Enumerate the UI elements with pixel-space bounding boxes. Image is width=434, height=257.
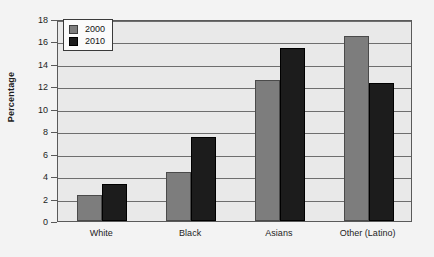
legend-item-label: 2000 <box>85 25 105 34</box>
y-axis-tick-label: 16 <box>18 38 48 47</box>
legend-item-2000: 2000 <box>69 23 105 35</box>
y-axis-tick-label: 4 <box>18 173 48 182</box>
y-axis-tick-mark <box>51 222 57 223</box>
bar-other-latino-2010 <box>369 83 394 221</box>
bar-asians-2010 <box>280 48 305 221</box>
legend-swatch-icon <box>69 25 78 34</box>
y-axis-tick-label: 10 <box>18 105 48 114</box>
x-axis-tick-label: Other (Latino) <box>340 228 396 238</box>
legend-item-label: 2010 <box>85 37 105 46</box>
bar-black-2010 <box>191 137 216 221</box>
legend-item-2010: 2010 <box>69 35 105 47</box>
bar-white-2000 <box>77 195 102 221</box>
x-axis-tick-label: Asians <box>265 228 292 238</box>
y-axis: 024681012141618 <box>0 0 57 257</box>
y-axis-tick-label: 18 <box>18 16 48 25</box>
y-axis-tick-label: 0 <box>18 218 48 227</box>
y-axis-tick-label: 6 <box>18 150 48 159</box>
bar-white-2010 <box>102 184 127 221</box>
bar-chart-figure: Percentage 024681012141618 WhiteBlackAsi… <box>0 0 434 257</box>
x-axis: WhiteBlackAsiansOther (Latino) <box>57 228 412 244</box>
legend-swatch-icon <box>69 37 78 46</box>
bar-asians-2000 <box>255 80 280 221</box>
y-axis-tick-label: 14 <box>18 60 48 69</box>
x-axis-tick-label: White <box>90 228 113 238</box>
bar-black-2000 <box>166 172 191 221</box>
y-axis-tick-label: 12 <box>18 83 48 92</box>
y-axis-tick-label: 2 <box>18 195 48 204</box>
chart-legend: 20002010 <box>63 19 113 51</box>
bar-other-latino-2000 <box>344 36 369 221</box>
x-axis-tick-label: Black <box>179 228 201 238</box>
y-axis-tick-label: 8 <box>18 128 48 137</box>
